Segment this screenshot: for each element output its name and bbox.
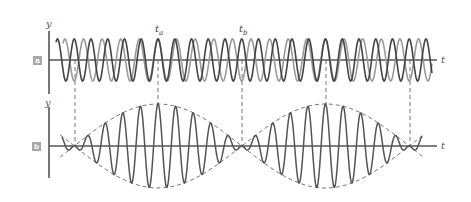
panel-a-plot — [49, 31, 437, 94]
panel-b-plot — [49, 104, 437, 188]
panel-b-label: b — [32, 142, 41, 151]
beats-plot — [0, 0, 471, 202]
beats-figure: a b y t y t ta tb — [0, 0, 471, 202]
panel-a-label: a — [33, 56, 42, 65]
panel-b-t-label: t — [441, 141, 445, 151]
time-marker-ta-sub: a — [159, 29, 163, 37]
time-marker-tb: tb — [239, 24, 248, 38]
time-marker-tb-sub: b — [243, 29, 247, 37]
dashed-guide-lines — [75, 60, 410, 146]
panel-b-y-label: y — [45, 98, 51, 108]
panel-a-y-label: y — [46, 19, 52, 29]
panel-a-t-label: t — [441, 55, 445, 65]
time-marker-ta: ta — [155, 24, 163, 38]
